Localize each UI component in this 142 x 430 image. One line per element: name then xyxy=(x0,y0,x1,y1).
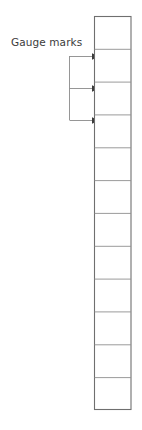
diagram-canvas xyxy=(0,0,142,430)
gauge-marks-label: Gauge marks xyxy=(11,36,82,48)
segmented-column-group xyxy=(95,17,132,410)
diagram-root: Gauge marks xyxy=(0,0,142,430)
